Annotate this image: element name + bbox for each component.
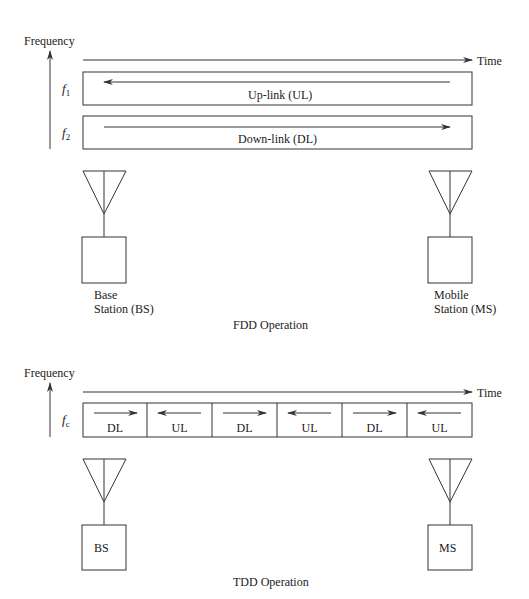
fdd-downlink-label: Down-link (DL) <box>238 132 317 146</box>
fdd-bs-label-line2: Station (BS) <box>94 302 154 316</box>
fdd-time-label: Time <box>477 54 502 68</box>
fdd-ms-box <box>428 237 472 283</box>
fdd-ms-label-line1: Mobile <box>434 288 469 302</box>
fdd-caption: FDD Operation <box>233 318 308 332</box>
tdd-time-label: Time <box>477 386 502 400</box>
tdd-ms-label: MS <box>439 541 456 555</box>
tdd-frequency-label: Frequency <box>24 366 75 380</box>
fdd-ms-antenna-icon <box>429 171 472 237</box>
fdd-bs-box <box>82 237 126 283</box>
fdd-ms-label-line2: Station (MS) <box>434 302 496 316</box>
tdd-fc-label: fc <box>62 413 70 431</box>
tdd-slot: DL <box>83 403 147 437</box>
tdd-bs-label: BS <box>94 541 109 555</box>
tdd-slot: DL <box>212 403 277 437</box>
fdd-uplink-label: Up-link (UL) <box>248 88 312 102</box>
tdd-slot: UL <box>407 403 472 437</box>
tdd-slot: DL <box>342 403 407 437</box>
fdd-frequency-label: Frequency <box>24 34 75 48</box>
fdd-f1-label: f1 <box>62 82 70 100</box>
tdd-slot: UL <box>277 403 342 437</box>
tdd-caption: TDD Operation <box>233 575 309 589</box>
fdd-bs-label-line1: Base <box>94 288 117 302</box>
tdd-ms-antenna-icon <box>429 459 472 525</box>
fdd-f2-label: f2 <box>62 126 70 144</box>
tdd-slot: UL <box>147 403 212 437</box>
tdd-bs-antenna-icon <box>83 459 126 525</box>
fdd-bs-antenna-icon <box>83 171 126 237</box>
